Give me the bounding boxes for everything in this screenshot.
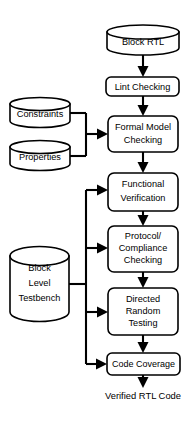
- edge-directed-random-testing-to-code-coverage: [138, 335, 149, 353]
- node-directed-random-testing: Directed Random Testing: [108, 288, 178, 335]
- node-protocol-compliance-checking-line1: Protocol/: [125, 231, 162, 241]
- node-directed-random-testing-line1: Directed: [126, 294, 160, 304]
- node-verified-rtl-code: Verified RTL Code: [105, 390, 181, 401]
- node-protocol-compliance-checking-line2: Compliance: [119, 243, 168, 253]
- node-block-level-testbench-line1: Block: [28, 263, 51, 273]
- node-formal-model-checking: Formal Model Checking: [108, 116, 178, 152]
- edge-lint-checking-to-formal-model-checking: [138, 95, 149, 116]
- node-directed-random-testing-line2: Random: [126, 306, 161, 316]
- node-constraints: Constraints: [10, 98, 70, 128]
- node-block-rtl: Block RTL: [107, 25, 179, 55]
- edge-protocol-compliance-checking-to-directed-random-testing: [138, 272, 149, 288]
- node-block-rtl-label: Block RTL: [122, 37, 164, 47]
- node-properties-label: Properties: [19, 152, 61, 162]
- node-constraints-label: Constraints: [17, 109, 64, 119]
- node-formal-model-checking-line1: Formal Model: [115, 122, 171, 132]
- edge-formal-model-checking-to-functional-verification: [138, 152, 149, 173]
- edge-block-rtl-to-lint-checking: [138, 54, 149, 77]
- node-code-coverage: Code Coverage: [107, 353, 180, 375]
- node-code-coverage-label: Code Coverage: [112, 359, 175, 369]
- verification-flow-diagram: Block RTL Lint Checking Constraints Prop…: [0, 0, 193, 424]
- node-lint-checking: Lint Checking: [106, 77, 179, 96]
- node-block-level-testbench-line2: Level: [29, 278, 51, 288]
- node-verified-rtl-code-label: Verified RTL Code: [105, 390, 181, 401]
- node-directed-random-testing-line3: Testing: [128, 318, 157, 328]
- flowchart-canvas: Block RTL Lint Checking Constraints Prop…: [0, 0, 193, 424]
- node-block-level-testbench: Block Level Testbench: [10, 247, 69, 322]
- node-functional-verification-line2: Verification: [121, 193, 166, 203]
- edge-block-level-testbench-branches: [69, 185, 108, 370]
- node-properties: Properties: [10, 141, 70, 171]
- node-block-level-testbench-line3: Testbench: [19, 293, 61, 303]
- edge-functional-verification-to-protocol-compliance-checking: [138, 211, 149, 226]
- node-protocol-compliance-checking: Protocol/ Compliance Checking: [108, 226, 178, 272]
- edge-constraints-properties-to-formal-model-checking: [70, 113, 108, 156]
- node-functional-verification: Functional Verification: [108, 173, 178, 211]
- edge-code-coverage-to-verified-rtl-code: [138, 375, 149, 388]
- node-lint-checking-label: Lint Checking: [115, 82, 171, 92]
- node-formal-model-checking-line2: Checking: [124, 135, 162, 145]
- node-functional-verification-line1: Functional: [122, 179, 164, 189]
- node-protocol-compliance-checking-line3: Checking: [124, 255, 162, 265]
